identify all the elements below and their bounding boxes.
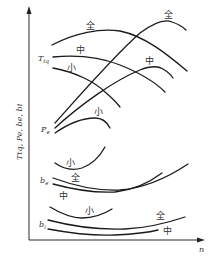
power-curves [55,21,186,133]
engine-characteristic-diagram: n Ttq, Pe, be, bi Ttq Pe be bi 全 中 小 全 中… [0,0,215,257]
be-label: be [40,176,49,186]
axes [27,6,206,243]
bi-label: bi [39,220,46,230]
pe-medium-tag: 中 [145,55,154,66]
pe-full-tag: 全 [164,9,173,20]
ttq-medium-tag: 中 [76,44,85,55]
ttq-label: Ttq [38,54,50,65]
be-small-tag: 小 [66,158,75,168]
be-small-curve [55,147,105,169]
bi-medium-tag: 中 [163,225,172,236]
ttq-small-tag: 小 [67,63,76,73]
x-axis-label: n [199,245,204,254]
ttq-full-tag: 全 [86,20,95,31]
y-axis-arrow-icon [27,6,32,14]
be-curves [53,147,188,192]
bi-small-tag: 小 [85,206,94,216]
pe-medium-curve [55,67,173,128]
be-medium-tag: 中 [59,190,68,201]
be-full-tag: 全 [71,172,80,183]
bi-small-curve [50,207,112,218]
x-axis-arrow-icon [197,238,205,243]
bi-medium-curve [48,229,158,235]
pe-label: Pe [40,125,50,135]
be-medium-curve [53,173,162,192]
bi-full-tag: 全 [156,210,165,221]
y-axis-label: Ttq, Pe, be, bi [15,103,24,160]
pe-small-tag: 小 [94,107,103,117]
throttle-labels: 全 中 小 全 中 小 小 全 中 小 全 中 [59,9,173,236]
